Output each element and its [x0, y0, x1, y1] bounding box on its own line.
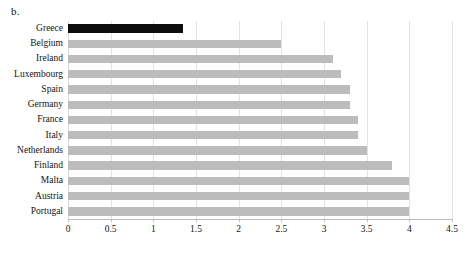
bar-row: [68, 51, 452, 66]
x-axis-tick-mark: [68, 219, 69, 222]
bar-greece: [68, 24, 183, 33]
x-axis-tick-label: 0: [66, 224, 71, 234]
x-axis-tick-label: 0.5: [105, 224, 117, 234]
x-axis-tick-labels: 00.511.522.533.544.5: [0, 224, 474, 242]
bar-chart-figure: b. GreeceBelgiumIrelandLuxembourgSpainGe…: [0, 0, 474, 255]
x-axis-line: [68, 219, 453, 220]
category-label-luxembourg: Luxembourg: [0, 67, 63, 82]
bar-germany: [68, 101, 350, 109]
x-axis-tick-mark: [409, 219, 410, 222]
x-axis-tick-label: 4.5: [446, 224, 458, 234]
bar-austria: [68, 192, 409, 200]
bar-row: [68, 158, 452, 173]
x-axis-tick-mark: [239, 219, 240, 222]
bar-row: [68, 36, 452, 51]
bar-row: [68, 189, 452, 204]
category-axis-labels: GreeceBelgiumIrelandLuxembourgSpainGerma…: [0, 21, 63, 219]
bar-row: [68, 128, 452, 143]
bar-luxembourg: [68, 70, 341, 78]
bar-finland: [68, 161, 392, 169]
panel-letter: b.: [11, 5, 20, 17]
plot-area: [68, 21, 452, 219]
bar-row: [68, 82, 452, 97]
category-label-ireland: Ireland: [0, 51, 63, 66]
bar-ireland: [68, 55, 333, 63]
bar-row: [68, 21, 452, 36]
x-axis-tick-label: 4: [407, 224, 412, 234]
category-label-germany: Germany: [0, 97, 63, 112]
x-axis-tick-label: 2.5: [275, 224, 287, 234]
x-axis-tick-label: 1: [151, 224, 156, 234]
x-axis-tick-mark: [367, 219, 368, 222]
category-label-portugal: Portugal: [0, 204, 63, 219]
x-axis-tick-label: 2: [236, 224, 241, 234]
category-label-austria: Austria: [0, 189, 63, 204]
bar-row: [68, 112, 452, 127]
bar-row: [68, 143, 452, 158]
x-axis-tick-mark: [196, 219, 197, 222]
bar-netherlands: [68, 146, 367, 154]
bar-portugal: [68, 207, 409, 215]
category-label-spain: Spain: [0, 82, 63, 97]
x-axis-tick-mark: [281, 219, 282, 222]
category-label-malta: Malta: [0, 173, 63, 188]
category-label-netherlands: Netherlands: [0, 143, 63, 158]
bar-row: [68, 204, 452, 219]
x-axis-tick-label: 3: [322, 224, 327, 234]
bar-spain: [68, 85, 350, 93]
bar-malta: [68, 177, 409, 185]
bar-italy: [68, 131, 358, 139]
category-label-greece: Greece: [0, 21, 63, 36]
x-axis-tick-mark: [153, 219, 154, 222]
category-label-finland: Finland: [0, 158, 63, 173]
category-label-belgium: Belgium: [0, 36, 63, 51]
category-label-italy: Italy: [0, 128, 63, 143]
x-axis-tick-mark: [452, 219, 453, 222]
bar-row: [68, 173, 452, 188]
x-axis-tick-mark: [111, 219, 112, 222]
bar-row: [68, 67, 452, 82]
x-axis-tick-mark: [324, 219, 325, 222]
category-label-france: France: [0, 112, 63, 127]
bar-belgium: [68, 40, 281, 48]
bar-france: [68, 116, 358, 124]
x-axis-tick-label: 1.5: [190, 224, 202, 234]
x-axis-tick-label: 3.5: [361, 224, 373, 234]
bar-row: [68, 97, 452, 112]
gridline: [452, 21, 453, 219]
